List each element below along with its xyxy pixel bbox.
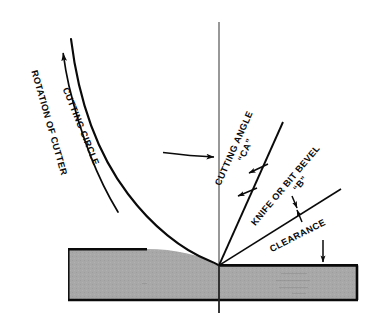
diagram-canvas: ROTATION OF CUTTER CUTTING CIRCLE CUTTIN… xyxy=(0,0,368,333)
rotation-of-cutter-arrow xyxy=(63,54,118,213)
feed-direction-arrow xyxy=(163,153,214,158)
clearance-arrow-upper xyxy=(292,196,297,208)
cutting-angle-leader-lower xyxy=(238,188,257,196)
diagram-linework xyxy=(0,0,368,333)
cutting-angle-leader-upper xyxy=(249,164,268,173)
workpiece-body xyxy=(68,249,358,300)
